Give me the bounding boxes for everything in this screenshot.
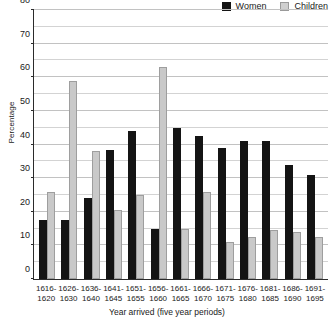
y-tick-label: 50: [20, 96, 30, 106]
x-tick-label-line2: 1695: [304, 294, 326, 304]
x-tick-label-line1: 1666-: [192, 284, 214, 294]
bar-children[interactable]: [92, 151, 100, 279]
y-tick-label: 40: [20, 130, 30, 140]
x-tick-label: 1616-1620: [35, 284, 57, 304]
x-tick-label-line2: 1665: [169, 294, 191, 304]
plot-area: 01020304050607080: [33, 10, 328, 280]
y-tick-label: 20: [20, 197, 30, 207]
x-tick-label-line1: 1681-: [259, 284, 281, 294]
x-tick-label-line2: 1685: [259, 294, 281, 304]
bar-chart: Women Children Percentage 01020304050607…: [0, 0, 334, 320]
bar-women[interactable]: [307, 175, 315, 279]
bar-women[interactable]: [285, 165, 293, 279]
bar-group: [259, 10, 281, 279]
x-tick-label-line1: 1626-: [57, 284, 79, 294]
x-tick-label-line1: 1686-: [281, 284, 303, 294]
bar-groups: [34, 10, 328, 279]
bar-group: [281, 10, 303, 279]
x-tick-label-line1: 1676-: [237, 284, 259, 294]
x-tick-label: 1626-1630: [57, 284, 79, 304]
x-axis-title: Year arrived (five year periods): [0, 307, 334, 317]
bar-group: [58, 10, 80, 279]
bar-women[interactable]: [218, 148, 226, 279]
y-tick-label: 60: [20, 62, 30, 72]
bar-women[interactable]: [240, 141, 248, 279]
x-tick-label-line1: 1661-: [169, 284, 191, 294]
bar-women[interactable]: [61, 220, 69, 279]
x-tick-label-line2: 1640: [80, 294, 102, 304]
x-tick-label: 1681-1685: [259, 284, 281, 304]
bar-children[interactable]: [203, 192, 211, 279]
bar-group: [237, 10, 259, 279]
x-tick-label-line1: 1651-: [125, 284, 147, 294]
bar-group: [192, 10, 214, 279]
bar-women[interactable]: [151, 229, 159, 279]
x-tick-label: 1691-1695: [304, 284, 326, 304]
bar-children[interactable]: [270, 230, 278, 279]
x-tick-label: 1686-1690: [281, 284, 303, 304]
bar-women[interactable]: [262, 141, 270, 279]
x-tick-label-line2: 1680: [237, 294, 259, 304]
x-tick-label: 1656-1660: [147, 284, 169, 304]
bar-children[interactable]: [226, 242, 234, 279]
bar-group: [125, 10, 147, 279]
plot-wrapper: 01020304050607080: [33, 10, 328, 280]
x-tick-label-line2: 1655: [125, 294, 147, 304]
bar-women[interactable]: [39, 220, 47, 279]
y-tick-label: 70: [20, 29, 30, 39]
bar-children[interactable]: [69, 81, 77, 279]
bar-women[interactable]: [84, 198, 92, 279]
x-tick-label: 1651-1655: [125, 284, 147, 304]
y-tick-label: 80: [20, 0, 30, 5]
x-tick-label-line2: 1630: [57, 294, 79, 304]
y-tick-label: 0: [25, 264, 30, 274]
x-tick-label: 1641-1645: [102, 284, 124, 304]
x-tick-label-line1: 1671-: [214, 284, 236, 294]
x-tick-label-line2: 1675: [214, 294, 236, 304]
x-tick-label-line1: 1636-: [80, 284, 102, 294]
y-axis-title: Percentage: [7, 88, 16, 158]
x-tick-label-line2: 1670: [192, 294, 214, 304]
x-tick-label-line2: 1620: [35, 294, 57, 304]
bar-children[interactable]: [159, 67, 167, 279]
bar-group: [215, 10, 237, 279]
x-axis-labels: 1616-16201626-16301636-16401641-16451651…: [33, 284, 328, 304]
x-tick-label: 1636-1640: [80, 284, 102, 304]
bar-women[interactable]: [173, 128, 181, 279]
bar-women[interactable]: [195, 136, 203, 279]
bar-women[interactable]: [106, 150, 114, 279]
bar-group: [36, 10, 58, 279]
x-tick-label: 1671-1675: [214, 284, 236, 304]
y-tick-label: 30: [20, 163, 30, 173]
y-tick-label: 10: [20, 230, 30, 240]
bar-group: [103, 10, 125, 279]
x-tick-label: 1666-1670: [192, 284, 214, 304]
x-tick-label: 1676-1680: [237, 284, 259, 304]
bar-group: [170, 10, 192, 279]
x-tick-label-line2: 1690: [281, 294, 303, 304]
bar-group: [148, 10, 170, 279]
x-tick-label-line1: 1691-: [304, 284, 326, 294]
bar-children[interactable]: [47, 192, 55, 279]
bar-children[interactable]: [136, 195, 144, 279]
x-tick-label-line1: 1616-: [35, 284, 57, 294]
x-tick-label-line1: 1656-: [147, 284, 169, 294]
bar-group: [304, 10, 326, 279]
x-tick-label: 1661-1665: [169, 284, 191, 304]
x-tick-label-line1: 1641-: [102, 284, 124, 294]
x-tick-label-line2: 1645: [102, 294, 124, 304]
bar-women[interactable]: [128, 131, 136, 279]
bar-children[interactable]: [315, 237, 323, 279]
bar-children[interactable]: [248, 237, 256, 279]
bar-children[interactable]: [114, 210, 122, 279]
bar-group: [81, 10, 103, 279]
bar-children[interactable]: [181, 229, 189, 279]
bar-children[interactable]: [293, 232, 301, 279]
x-tick-label-line2: 1660: [147, 294, 169, 304]
